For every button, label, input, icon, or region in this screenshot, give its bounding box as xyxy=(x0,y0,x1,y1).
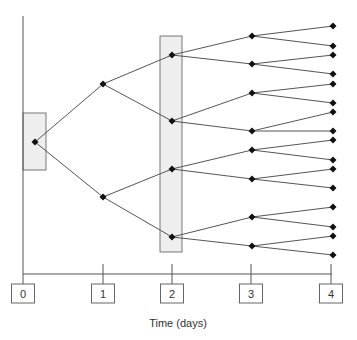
tree-node-day-4 xyxy=(330,109,337,116)
tick-label: 0 xyxy=(20,288,26,300)
tree-edge xyxy=(252,207,333,217)
tree-node-day-4 xyxy=(330,157,337,164)
tree-node-day-4 xyxy=(330,71,337,78)
tree-node-day-3 xyxy=(249,243,256,250)
tree-edge xyxy=(172,217,252,237)
tick-label: 1 xyxy=(100,288,106,300)
highlight-boxes xyxy=(23,36,182,252)
tree-node-day-3 xyxy=(249,176,256,183)
tree-edge xyxy=(172,150,252,169)
tick-label-boxes: 01234 xyxy=(12,284,343,303)
tick-label: 2 xyxy=(169,288,175,300)
tree-node-day-4 xyxy=(330,204,337,211)
tree-node-day-4 xyxy=(330,166,337,173)
tree-edge xyxy=(252,236,333,246)
tree-edge xyxy=(252,217,333,227)
tree-node-day-4 xyxy=(330,128,337,135)
tree-edge xyxy=(172,55,252,64)
tree-node-day-3 xyxy=(249,90,256,97)
tree-edge xyxy=(252,246,333,255)
tree-node-day-3 xyxy=(249,147,256,154)
tree-edge xyxy=(252,55,333,64)
tree-node-day-4 xyxy=(330,252,337,259)
tree-edge xyxy=(252,26,333,36)
tree-edges xyxy=(35,26,333,255)
tree-edge xyxy=(252,169,333,179)
tree-edge xyxy=(252,179,333,188)
tree-edge xyxy=(252,150,333,160)
tree-edge xyxy=(172,93,252,121)
tree-node-day-4 xyxy=(330,137,337,144)
stage-2-highlight-box xyxy=(160,36,182,252)
tree-edge xyxy=(252,36,333,46)
tree-node-day-4 xyxy=(330,43,337,50)
tree-node-day-4 xyxy=(330,81,337,88)
tree-node-day-3 xyxy=(249,33,256,40)
tree-node-day-4 xyxy=(330,23,337,30)
tree-node-day-4 xyxy=(330,224,337,231)
tree-node-day-4 xyxy=(330,185,337,192)
tree-edge xyxy=(172,121,252,131)
tick-label: 4 xyxy=(328,288,334,300)
x-axis-label: Time (days) xyxy=(149,317,207,329)
tree-edge xyxy=(172,36,252,55)
tree-edge xyxy=(172,237,252,246)
tree-edge xyxy=(252,112,333,131)
tree-edge xyxy=(252,140,333,150)
scenario-tree-diagram: 01234 Time (days) xyxy=(0,0,357,340)
tree-edge xyxy=(252,84,333,93)
tree-node-day-3 xyxy=(249,128,256,135)
tick-label: 3 xyxy=(248,288,254,300)
tree-node-day-3 xyxy=(249,61,256,68)
tree-edge xyxy=(252,93,333,103)
tree-edge xyxy=(252,64,333,74)
tree-nodes xyxy=(32,23,337,259)
tree-node-day-4 xyxy=(330,233,337,240)
tree-node-day-4 xyxy=(330,52,337,59)
tree-node-day-4 xyxy=(330,100,337,107)
tree-edge xyxy=(172,169,252,179)
tree-node-day-3 xyxy=(249,214,256,221)
